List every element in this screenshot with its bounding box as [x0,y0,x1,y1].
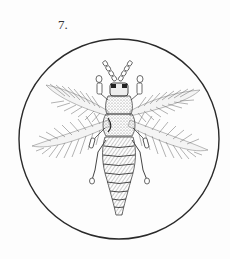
head [110,83,128,96]
abdomen [103,137,136,215]
antenna-right [118,60,133,81]
illustration-plate: 7. [0,0,230,259]
thrips-illustration [0,0,230,259]
eye-right [122,84,127,88]
antennae [102,60,132,81]
foreleg-left [96,76,108,101]
foreleg-right [131,76,143,101]
antenna-left [102,60,117,81]
eye-left [111,84,116,88]
thorax [103,96,135,136]
